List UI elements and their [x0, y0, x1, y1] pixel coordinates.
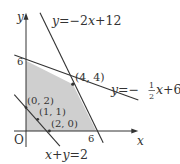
point-label-1-1: (1, 1): [39, 106, 66, 117]
point-label-2-0: (2, 0): [51, 118, 78, 129]
point-label-4-4: (4, 4): [75, 71, 105, 84]
label-y-minus2x-plus12: y=−2x+12: [51, 13, 121, 28]
label-x-plus-y-eq-2: x+y=2: [45, 147, 88, 162]
y-tick-6: 6: [17, 56, 23, 67]
lp-diagram: y x O 6 6 y=−2x+12 y=− 1 2 x+6 x+y=2 (4,…: [0, 0, 180, 164]
label-y-minus-half-x-plus6: y=−: [110, 82, 139, 97]
point-1-1: [36, 118, 39, 121]
fraction-denominator: 2: [149, 92, 154, 101]
point-2-0: [48, 130, 51, 133]
x-axis-arrow-icon: [131, 129, 138, 134]
y-axis-arrow-icon: [24, 13, 29, 20]
origin-label: O: [14, 133, 24, 147]
fraction-numerator: 1: [149, 81, 154, 90]
point-0-2: [25, 106, 28, 109]
label-half-x-suffix: x+6: [156, 82, 180, 97]
point-label-0-2: (0, 2): [27, 95, 54, 106]
x-axis-label: x: [137, 134, 144, 148]
y-axis-label: y: [16, 10, 24, 24]
point-4-4: [71, 83, 74, 86]
x-tick-6: 6: [88, 133, 94, 144]
